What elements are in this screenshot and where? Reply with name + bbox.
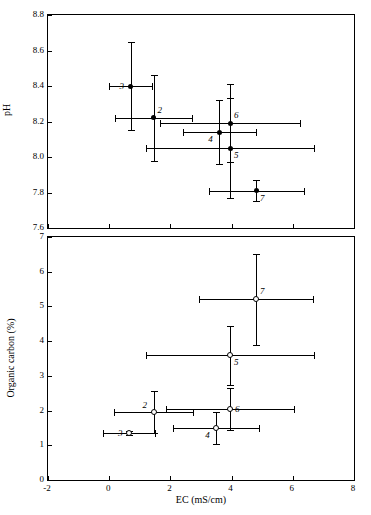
data-point: [151, 115, 156, 120]
y-tick: [48, 228, 52, 229]
x-error-cap: [114, 409, 115, 416]
y-error-cap: [151, 161, 158, 162]
y-error-cap: [253, 254, 260, 255]
y-error-cap: [128, 42, 135, 43]
y-error-cap: [151, 391, 158, 392]
data-point-label: 3: [118, 428, 123, 438]
y-error-cap: [227, 430, 234, 431]
y-error-cap: [253, 201, 260, 202]
y-tick: [48, 445, 52, 446]
data-point-label: 7: [260, 286, 265, 296]
x-tick: [48, 476, 49, 480]
x-tick: [232, 476, 233, 480]
x-error-cap: [259, 425, 260, 432]
y-error-cap: [151, 75, 158, 76]
y-error-cap: [253, 345, 260, 346]
y-tick-label: 8.0: [16, 151, 44, 161]
y-tick-label: 1: [16, 439, 44, 449]
x-tick: [354, 224, 355, 228]
x-error-cap: [199, 296, 200, 303]
x-tick-label: 2: [157, 483, 181, 493]
data-point: [253, 296, 259, 302]
chart-panel-organic-carbon: 324657: [47, 236, 355, 481]
figure-root: 324657 324657 pH Organic carbon (%) EC (…: [0, 0, 371, 515]
data-point: [254, 188, 259, 193]
data-point-label: 6: [234, 110, 239, 120]
y-error-cap: [253, 180, 260, 181]
x-tick-label: 4: [219, 483, 243, 493]
y-error-cap: [213, 412, 220, 413]
y-tick-label: 8.6: [16, 45, 44, 55]
data-point: [227, 406, 233, 412]
y-tick-label: 4: [16, 335, 44, 345]
y-tick-label: 5: [16, 300, 44, 310]
x-error-cap: [146, 145, 147, 152]
x-error-cap: [313, 296, 314, 303]
x-error-cap: [183, 129, 184, 136]
y-tick: [48, 157, 52, 158]
data-point-label: 2: [158, 105, 163, 115]
y-tick-label: 3: [16, 370, 44, 380]
x-error-cap: [160, 120, 161, 127]
x-tick: [293, 224, 294, 228]
y-tick-label: 8.2: [16, 116, 44, 126]
y-error-cap: [216, 100, 223, 101]
x-error-cap: [115, 115, 116, 122]
y-error-cap: [227, 98, 234, 99]
x-tick-label: 6: [280, 483, 304, 493]
x-tick-label: -2: [35, 483, 59, 493]
y-tick: [48, 411, 52, 412]
y-error-cap: [227, 388, 234, 389]
data-point: [227, 352, 233, 358]
x-error-cap: [314, 145, 315, 152]
y-tick: [48, 122, 52, 123]
y-tick: [48, 193, 52, 194]
y-tick-label: 7.8: [16, 187, 44, 197]
y-tick: [48, 272, 52, 273]
x-tick: [232, 224, 233, 228]
x-error-cap: [166, 406, 167, 413]
x-tick: [170, 224, 171, 228]
y-tick: [48, 15, 52, 16]
y-tick: [48, 306, 52, 307]
x-tick-label: 8: [341, 483, 365, 493]
y-tick-label: 6: [16, 266, 44, 276]
y-tick: [48, 86, 52, 87]
data-point: [151, 409, 157, 415]
data-point-label: 6: [235, 404, 240, 414]
data-point: [228, 146, 233, 151]
data-point-label: 2: [143, 400, 148, 410]
x-tick: [293, 476, 294, 480]
plot-area-organic-carbon: 324657: [48, 237, 354, 480]
x-error-cap: [256, 129, 257, 136]
y-tick: [48, 237, 52, 238]
y-axis-title-ph: pH: [1, 104, 12, 116]
x-tick: [109, 476, 110, 480]
x-tick: [170, 476, 171, 480]
y-tick-label: 2: [16, 405, 44, 415]
data-point-label: 4: [208, 134, 213, 144]
y-error-cap: [227, 84, 234, 85]
plot-area-ph: 324657: [48, 15, 354, 228]
y-error-cap: [227, 326, 234, 327]
y-error-cap: [227, 385, 234, 386]
data-point-label: 5: [234, 357, 239, 367]
data-point-label: 5: [234, 150, 239, 160]
y-axis-title-organic-carbon: Organic carbon (%): [5, 318, 16, 397]
data-point-label: 7: [260, 193, 265, 203]
x-error-cap: [314, 352, 315, 359]
data-point: [217, 130, 222, 135]
y-error-cap: [216, 164, 223, 165]
y-error-cap: [151, 433, 158, 434]
x-error-cap: [103, 430, 104, 437]
y-tick-label: 8.8: [16, 9, 44, 19]
x-error-cap: [193, 409, 194, 416]
x-error-cap: [173, 425, 174, 432]
y-error-cap: [213, 444, 220, 445]
x-error-cap: [146, 352, 147, 359]
x-error-cap: [209, 188, 210, 195]
x-tick: [48, 224, 49, 228]
x-error-cap: [304, 188, 305, 195]
data-point: [128, 84, 133, 89]
y-error-cap: [227, 198, 234, 199]
